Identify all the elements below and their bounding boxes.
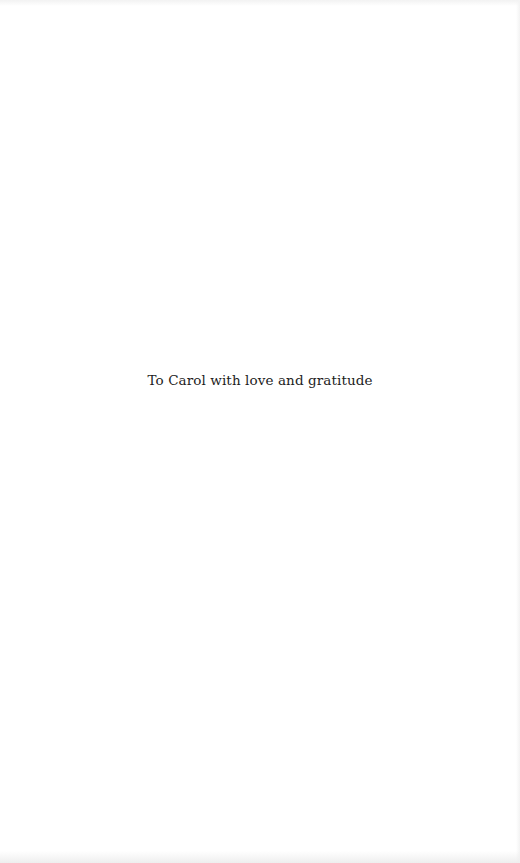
page-right-edge (516, 0, 520, 863)
book-page: To Carol with love and gratitude (0, 0, 520, 863)
page-top-edge (0, 0, 520, 6)
dedication-text: To Carol with love and gratitude (0, 370, 520, 390)
page-bottom-edge (0, 851, 520, 863)
